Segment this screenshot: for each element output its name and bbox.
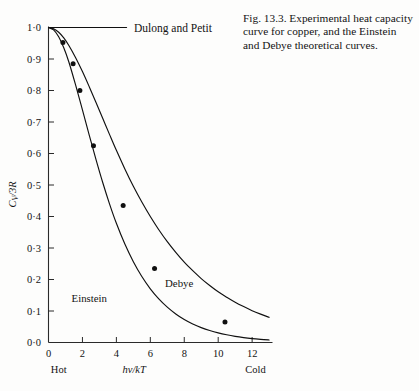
x-axis-tick-label: 10 <box>213 348 224 359</box>
dulong-petit-label: Dulong and Petit <box>134 22 213 35</box>
x-axis-tick-label: 4 <box>114 348 120 359</box>
y-axis-tick-label: 0·3 <box>27 243 41 254</box>
y-axis-tick-label: 0·1 <box>27 306 41 317</box>
y-axis-tick-label: 0·9 <box>27 54 41 65</box>
data-point <box>71 61 76 66</box>
y-axis-tick-label: 0·7 <box>27 117 41 128</box>
y-axis-tick-label: 0·4 <box>27 211 42 222</box>
y-axis-tick-label: 0·5 <box>27 180 41 191</box>
data-point <box>77 88 82 93</box>
einstein-label: Einstein <box>72 292 108 304</box>
y-axis-tick-label: 0·0 <box>27 337 41 348</box>
data-point <box>121 203 126 208</box>
x-axis-tick-label: 0 <box>46 348 51 359</box>
curve-debye <box>49 28 270 318</box>
data-point <box>152 266 157 271</box>
figure-caption: Fig. 13.3. Experimental heat capacity cu… <box>243 12 415 52</box>
figure-page: 0·00·10·20·30·40·50·60·70·80·91·00246810… <box>0 0 419 391</box>
y-axis-tick-label: 0·6 <box>27 148 41 159</box>
debye-label: Debye <box>165 277 193 289</box>
data-point <box>91 143 96 148</box>
y-axis-tick-label: 0·2 <box>27 274 41 285</box>
x-axis-tick-label: 12 <box>247 348 258 359</box>
heat-capacity-chart: 0·00·10·20·30·40·50·60·70·80·91·00246810… <box>0 0 419 391</box>
data-points-experimental-copper <box>60 40 227 324</box>
cold-label: Cold <box>245 364 266 375</box>
y-axis-title-text: CV/3R <box>7 181 20 208</box>
hot-label: Hot <box>51 364 67 375</box>
x-axis-tick-label: 2 <box>80 348 85 359</box>
data-point <box>60 40 65 45</box>
y-axis-tick-label: 0·8 <box>27 85 41 96</box>
y-axis-tick-label: 1·0 <box>27 22 41 33</box>
data-point <box>222 320 227 325</box>
x-axis-tick-label: 8 <box>182 348 187 359</box>
y-axis-title: CV/3R <box>7 181 20 208</box>
x-axis-title: hv/kT <box>123 364 147 375</box>
x-axis-tick-label: 6 <box>148 348 153 359</box>
